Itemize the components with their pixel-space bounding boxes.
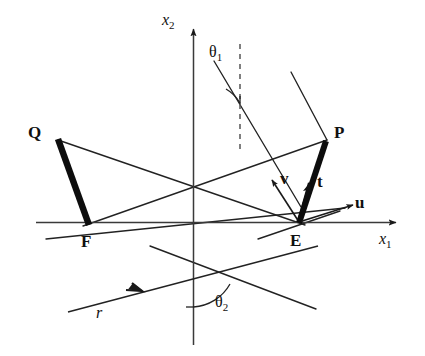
- point-f-label: F: [81, 233, 91, 250]
- point-q-label: Q: [28, 124, 41, 141]
- theta1-label: θ1: [209, 44, 222, 63]
- figure-canvas: x2 x1 θ1 θ2 Q P F E v t u r: [0, 0, 425, 356]
- ray-r-label: r: [96, 305, 102, 321]
- vector-u-label: u: [355, 194, 364, 211]
- vector-v-label: v: [280, 170, 289, 187]
- point-p-label: P: [334, 124, 344, 141]
- x1-axis-label: x1: [379, 231, 392, 250]
- line-upper-to-p: [291, 72, 327, 140]
- vector-t-label: t: [317, 173, 323, 190]
- theta2-label: θ2: [215, 294, 228, 313]
- segment-q-f-thick: [58, 139, 89, 225]
- point-e-label: E: [290, 232, 301, 249]
- x2-axis-label: x2: [162, 12, 175, 31]
- line-theta2-descending: [150, 246, 316, 309]
